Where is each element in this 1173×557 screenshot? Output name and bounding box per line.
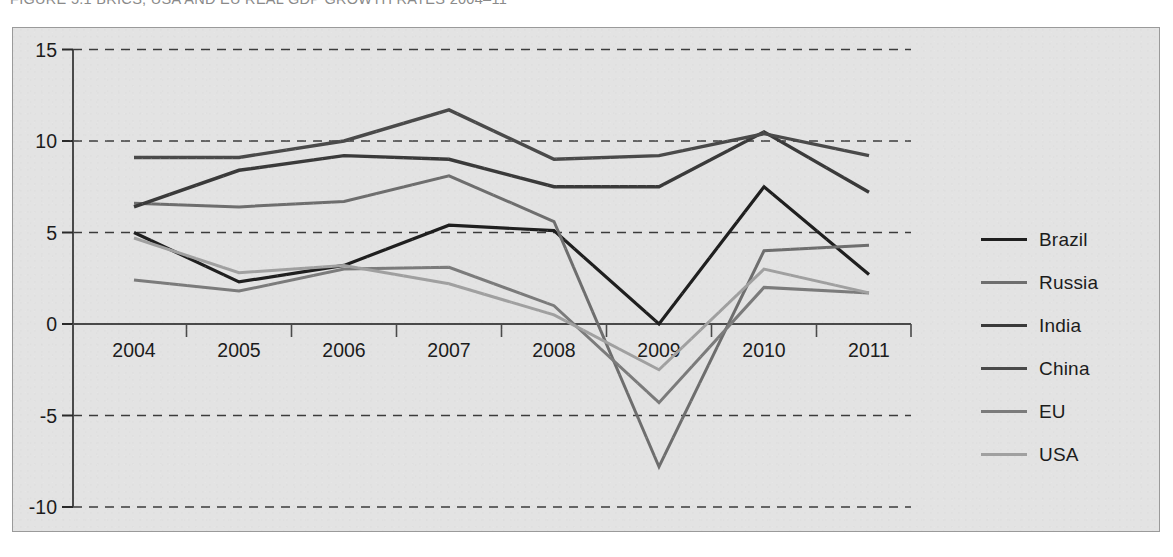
legend-label-russia: Russia — [1039, 273, 1098, 292]
legend-label-india: India — [1039, 316, 1081, 335]
legend-label-usa: USA — [1039, 445, 1079, 464]
legend-swatch-brazil — [981, 238, 1027, 241]
legend-item-brazil[interactable]: Brazil — [981, 218, 1151, 261]
y-axis-label-10: 10 — [35, 130, 57, 152]
legend-swatch-eu — [981, 410, 1027, 413]
legend-label-eu: EU — [1039, 402, 1066, 421]
y-axis-label--5: -5 — [40, 405, 57, 427]
legend-swatch-china — [981, 367, 1027, 370]
x-axis-label-2005: 2005 — [217, 339, 261, 361]
legend-item-usa[interactable]: USA — [981, 433, 1151, 476]
x-axis-label-2004: 2004 — [112, 339, 156, 361]
y-axis-label-15: 15 — [35, 39, 57, 61]
x-axis-label-2008: 2008 — [532, 339, 575, 361]
series-line-china — [134, 110, 869, 159]
y-axis-label-0: 0 — [46, 313, 57, 335]
figure-container: FIGURE 5.1 BRICS, USA AND EU REAL GDP GR… — [0, 0, 1173, 557]
x-axis-label-2011: 2011 — [848, 339, 890, 361]
chart-panel: 151050-5-1020042005200620072008200920102… — [12, 27, 1160, 532]
x-axis-label-2006: 2006 — [322, 339, 365, 361]
y-axis-label-5: 5 — [46, 222, 57, 244]
x-axis-label-2009: 2009 — [637, 339, 680, 361]
figure-title: FIGURE 5.1 BRICS, USA AND EU REAL GDP GR… — [10, 0, 507, 7]
legend-item-eu[interactable]: EU — [981, 390, 1151, 433]
x-axis-label-2010: 2010 — [742, 339, 786, 361]
legend-swatch-usa — [981, 453, 1027, 456]
chart-legend: BrazilRussiaIndiaChinaEUUSA — [981, 218, 1151, 476]
legend-label-china: China — [1039, 359, 1090, 378]
y-axis-label--10: -10 — [29, 496, 57, 518]
legend-swatch-india — [981, 324, 1027, 327]
legend-item-india[interactable]: India — [981, 304, 1151, 347]
legend-item-china[interactable]: China — [981, 347, 1151, 390]
legend-item-russia[interactable]: Russia — [981, 261, 1151, 304]
legend-swatch-russia — [981, 281, 1027, 284]
x-axis-label-2007: 2007 — [427, 339, 470, 361]
series-line-russia — [134, 176, 869, 467]
legend-label-brazil: Brazil — [1039, 230, 1088, 249]
